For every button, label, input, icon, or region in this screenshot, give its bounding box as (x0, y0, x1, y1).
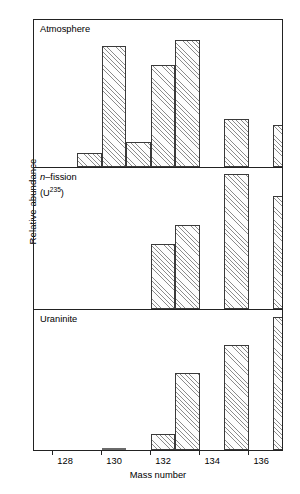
bar (102, 448, 127, 450)
bar (175, 225, 200, 309)
panel-n-fission-title-fission: –fission (45, 172, 77, 182)
bar (77, 153, 102, 167)
panel-n-fission-title-u-superscript: 235 (50, 186, 61, 193)
bar (126, 142, 151, 167)
panel-stack: Atmosphere n–fission (U235) Uraninite (33, 19, 283, 451)
x-axis-tick-label: 128 (50, 456, 80, 466)
x-axis-tick-label: 130 (99, 456, 129, 466)
x-axis-label: Mass number (33, 470, 283, 480)
panel-atmosphere-title-text: Atmosphere (40, 24, 90, 34)
x-axis-tick (248, 451, 249, 455)
bar (224, 174, 249, 309)
x-axis-tick (101, 451, 102, 455)
panel-uraninite-title: Uraninite (40, 314, 77, 326)
x-axis-tick-label: 132 (148, 456, 178, 466)
panel-uraninite: Uraninite (34, 310, 282, 450)
panel-atmosphere: Atmosphere (34, 20, 282, 168)
bar (175, 373, 200, 450)
panel-n-fission-title-u-open: (U (40, 188, 50, 198)
panel-n-fission-title-u-close: ) (61, 188, 64, 198)
bars-atmosphere (34, 20, 282, 167)
bar (151, 434, 176, 450)
bar (224, 345, 249, 450)
x-axis-tick (150, 451, 151, 455)
bar (175, 40, 200, 167)
panel-n-fission: n–fission (U235) (34, 168, 282, 310)
panel-uraninite-title-text: Uraninite (40, 314, 77, 324)
panel-atmosphere-title: Atmosphere (40, 24, 90, 36)
x-axis-tick-label: 136 (246, 456, 276, 466)
panel-n-fission-title: n–fission (U235) (40, 172, 77, 199)
bar (102, 46, 127, 167)
figure-xenon-isotope-abundance: Relative abundance Atmosphere n–fission … (0, 0, 300, 494)
bar (273, 317, 282, 450)
bars-uraninite (34, 310, 282, 450)
bar (273, 125, 282, 167)
bar (151, 65, 176, 167)
bar (224, 119, 249, 167)
x-axis-tick (52, 451, 53, 455)
x-axis-tick (199, 451, 200, 455)
bar (273, 196, 282, 309)
x-axis-tick-labels: 128130132134136 (33, 456, 283, 470)
x-axis-tick-label: 134 (197, 456, 227, 466)
bar (151, 244, 176, 309)
